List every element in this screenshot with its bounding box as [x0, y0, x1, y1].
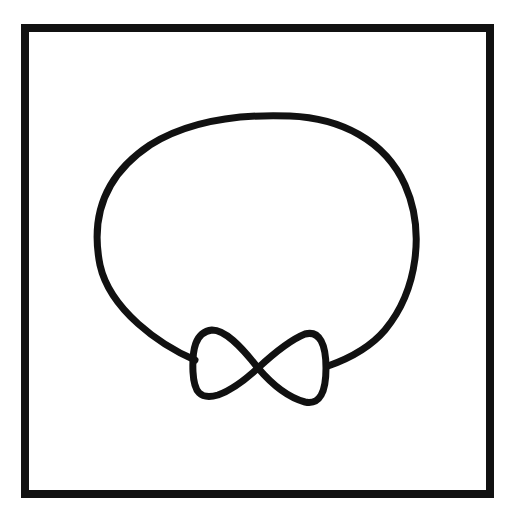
- drawing-canvas: [0, 0, 513, 514]
- drawing-svg: [0, 0, 513, 514]
- background: [0, 0, 513, 514]
